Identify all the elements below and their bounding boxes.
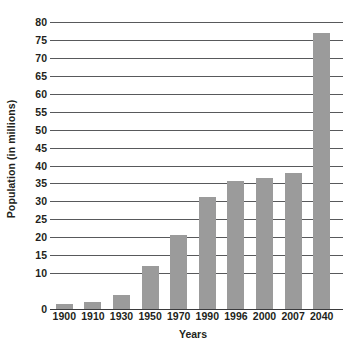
y-axis-tick-mark <box>336 58 343 59</box>
bar <box>285 173 302 309</box>
y-axis-tick-label: 40 <box>20 160 47 171</box>
y-axis-tick-mark <box>336 40 343 41</box>
y-axis-tick-labels: 8075706560555045403530252015100 <box>20 0 47 318</box>
y-axis-tick-label: 15 <box>20 250 47 261</box>
x-axis-tick-label: 1900 <box>53 311 76 322</box>
y-axis-tick-label: 70 <box>20 53 47 64</box>
y-axis-tick-mark <box>336 76 343 77</box>
bar <box>84 302 101 309</box>
y-axis-title: Population (in millions) <box>0 0 22 318</box>
y-axis-tick-mark <box>336 166 343 167</box>
x-axis-tick-label: 1996 <box>224 311 247 322</box>
y-axis-title-text: Population (in millions) <box>5 100 17 218</box>
y-axis-tick-mark <box>336 201 343 202</box>
y-axis-tick-mark <box>336 22 343 23</box>
y-axis-tick-mark <box>336 130 343 131</box>
y-axis-tick-label: 75 <box>20 35 47 46</box>
x-axis-title: Years <box>50 329 336 340</box>
bar <box>313 33 330 309</box>
bar <box>142 266 159 309</box>
y-axis-tick-label: 25 <box>20 214 47 225</box>
bar <box>170 235 187 309</box>
y-axis-tick-label: 20 <box>20 232 47 243</box>
bar <box>113 295 130 309</box>
x-axis-tick-label: 2007 <box>281 311 304 322</box>
x-axis-tick-label: 1990 <box>196 311 219 322</box>
y-axis-tick-label: 55 <box>20 106 47 117</box>
y-axis-tick-mark <box>336 237 343 238</box>
x-axis-tick-label: 2040 <box>310 311 333 322</box>
x-axis-tick-label: 1950 <box>138 311 161 322</box>
y-axis-tick-label: 35 <box>20 178 47 189</box>
y-axis-tick-mark <box>336 219 343 220</box>
bar <box>199 197 216 309</box>
y-axis-tick-label: 80 <box>20 17 47 28</box>
y-axis-tick-label: 10 <box>20 268 47 279</box>
x-axis-tick-labels: 1900191019301950197019901996200020072040 <box>50 311 336 327</box>
y-axis-tick-label: 60 <box>20 89 47 100</box>
y-axis-tick-label: 30 <box>20 196 47 207</box>
x-axis-tick-label: 1970 <box>167 311 190 322</box>
y-axis-tick-label: 50 <box>20 124 47 135</box>
x-axis-tick-label: 1910 <box>81 311 104 322</box>
y-axis-tick-mark <box>336 112 343 113</box>
y-axis-tick-mark <box>336 183 343 184</box>
bar <box>256 178 273 309</box>
x-axis-tick-label: 1930 <box>110 311 133 322</box>
y-axis-tick-mark <box>336 273 343 274</box>
bar <box>227 181 244 309</box>
y-axis-tick-mark <box>336 94 343 95</box>
y-axis-tick-label: 45 <box>20 142 47 153</box>
bar-chart: Population (in millions) 807570656055504… <box>0 0 357 346</box>
y-axis-tick-label: 65 <box>20 71 47 82</box>
y-axis-tick-label: 0 <box>20 304 47 315</box>
x-axis-tick-label: 2000 <box>253 311 276 322</box>
y-axis-tick-mark <box>336 255 343 256</box>
plot-area <box>50 22 336 309</box>
y-axis-tick-mark <box>336 148 343 149</box>
bars-group <box>50 22 336 309</box>
